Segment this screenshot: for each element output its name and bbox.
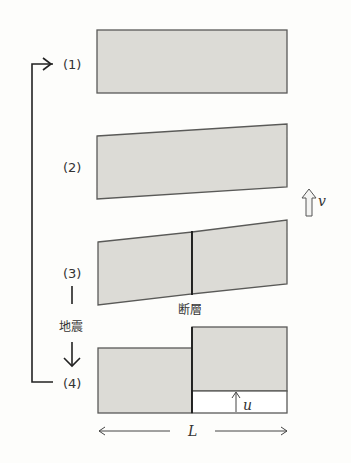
stage-4-right-block (192, 327, 287, 391)
cycle-bracket (32, 58, 53, 382)
earthquake-arrow: 地震 (59, 286, 83, 366)
elastic-rebound-diagram: (1) (2) (3) (4) 地震 v 断層 u L (0, 0, 351, 463)
stage-label-3: (3) (63, 266, 81, 281)
stage-1-block (97, 30, 287, 93)
stage-3-right-block (192, 220, 287, 294)
stage-label-1: (1) (63, 57, 81, 72)
velocity-symbol: v (318, 193, 326, 209)
double-up-arrow-icon (302, 189, 316, 216)
stage-label-4: (4) (63, 376, 81, 391)
fault-label: 断層 (178, 302, 202, 317)
stage-3-left-block (98, 232, 192, 305)
length-symbol: L (187, 423, 197, 439)
stage-4-left-block (98, 348, 192, 413)
earthquake-label: 地震 (59, 320, 83, 334)
displacement-symbol: u (243, 397, 252, 413)
velocity-arrow: v (302, 189, 326, 216)
stage-2-block (97, 124, 287, 199)
length-dimension: L (99, 423, 287, 439)
stage-4-displacement-gap (192, 391, 287, 413)
stage-label-2: (2) (63, 160, 81, 175)
